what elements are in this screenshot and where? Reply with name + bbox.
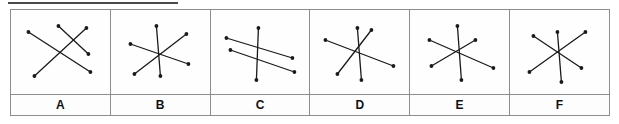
figure-grid-root: A B C D <box>0 0 619 124</box>
option-figure-d <box>310 10 409 94</box>
line-segment <box>34 28 86 76</box>
option-label-a: A <box>56 99 65 111</box>
option-label-b: B <box>156 99 165 111</box>
endpoint-dot <box>89 70 93 74</box>
options-grid: A B C D <box>10 9 610 116</box>
endpoint-dot <box>428 38 432 42</box>
endpoint-dot <box>132 72 136 76</box>
endpoint-dot <box>154 24 158 28</box>
option-figure-c <box>211 10 310 94</box>
option-label-cell-e[interactable]: E <box>410 94 509 115</box>
endpoint-dot <box>184 32 188 36</box>
endpoint-dot <box>370 28 374 32</box>
line-segment <box>338 30 372 74</box>
endpoint-dot <box>336 72 340 76</box>
endpoint-dot <box>290 56 294 60</box>
endpoint-dot <box>254 78 258 82</box>
option-label-c: C <box>256 99 265 111</box>
option-column-e[interactable]: E <box>410 10 510 115</box>
endpoint-dot <box>560 80 564 84</box>
segment-diagram <box>510 10 609 94</box>
endpoint-dot <box>87 52 91 56</box>
line-segment <box>156 26 160 76</box>
endpoint-dot <box>33 74 37 78</box>
option-figure-e <box>410 10 509 94</box>
line-segment <box>230 50 294 72</box>
endpoint-dot <box>430 64 434 68</box>
endpoint-dot <box>528 70 532 74</box>
option-figure-a <box>11 10 110 94</box>
endpoint-dot <box>456 24 460 28</box>
endpoint-dot <box>158 74 162 78</box>
segment-diagram <box>310 10 409 94</box>
option-label-cell-a[interactable]: A <box>11 94 110 115</box>
endpoint-dot <box>392 64 396 68</box>
endpoint-dot <box>360 78 364 82</box>
options-table: A B C D <box>10 9 610 116</box>
option-label-cell-b[interactable]: B <box>111 94 210 115</box>
option-label-cell-f[interactable]: F <box>510 94 609 115</box>
endpoint-dot <box>27 30 31 34</box>
endpoint-dot <box>85 26 89 30</box>
line-segment <box>28 32 90 72</box>
segment-diagram <box>410 10 509 94</box>
segment-diagram <box>11 10 110 94</box>
option-column-d[interactable]: D <box>310 10 410 115</box>
endpoint-dot <box>324 38 328 42</box>
line-segment <box>256 28 258 80</box>
option-column-a[interactable]: A <box>11 10 111 115</box>
option-column-b[interactable]: B <box>111 10 211 115</box>
segment-diagram <box>111 10 210 94</box>
option-label-e: E <box>456 99 464 111</box>
line-segment <box>558 32 562 82</box>
endpoint-dot <box>292 70 296 74</box>
endpoint-dot <box>228 48 232 52</box>
endpoint-dot <box>584 30 588 34</box>
endpoint-dot <box>492 66 496 70</box>
endpoint-dot <box>474 38 478 42</box>
endpoint-dot <box>57 24 61 28</box>
option-column-f[interactable]: F <box>510 10 609 115</box>
option-label-f: F <box>556 99 564 111</box>
endpoint-dot <box>460 78 464 82</box>
endpoint-dot <box>256 26 260 30</box>
option-column-c[interactable]: C <box>211 10 311 115</box>
endpoint-dot <box>224 36 228 40</box>
segment-diagram <box>211 10 310 94</box>
top-rule-divider <box>8 2 178 4</box>
option-label-cell-c[interactable]: C <box>211 94 310 115</box>
endpoint-dot <box>580 66 584 70</box>
option-figure-b <box>111 10 210 94</box>
endpoint-dot <box>186 62 190 66</box>
line-segment <box>430 40 494 68</box>
option-label-d: D <box>355 99 364 111</box>
endpoint-dot <box>556 30 560 34</box>
line-segment <box>226 38 292 58</box>
option-label-cell-d[interactable]: D <box>310 94 409 115</box>
endpoint-dot <box>532 34 536 38</box>
endpoint-dot <box>128 42 132 46</box>
endpoint-dot <box>356 26 360 30</box>
option-figure-f <box>510 10 609 94</box>
